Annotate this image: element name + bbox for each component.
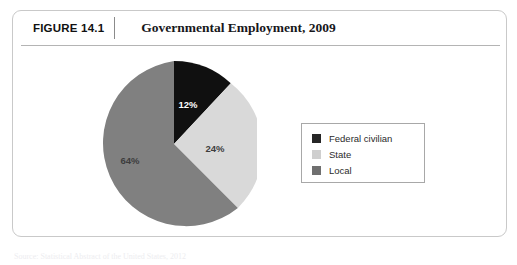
- pie-label-state: 24%: [205, 143, 225, 154]
- legend-item-local: Local: [312, 163, 424, 178]
- chart-plot-area: 12% 24% 64% Federal civilian State Local: [13, 46, 506, 237]
- header-divider: [114, 17, 115, 39]
- legend-label-local: Local: [329, 165, 352, 176]
- legend-swatch-federal-civilian: [312, 134, 321, 143]
- legend-item-state: State: [312, 147, 424, 162]
- chart-legend: Federal civilian State Local: [301, 123, 425, 183]
- pie-label-local: 64%: [120, 155, 140, 166]
- legend-swatch-state: [312, 150, 321, 159]
- pie-chart: 12% 24% 64%: [91, 61, 257, 227]
- legend-label-state: State: [329, 149, 351, 160]
- pie-chart-svg: 12% 24% 64%: [91, 61, 257, 227]
- legend-swatch-local: [312, 166, 321, 175]
- source-note: Source: Statistical Abstract of the Unit…: [14, 252, 344, 262]
- figure-card: FIGURE 14.1 Governmental Employment, 200…: [12, 10, 507, 237]
- pie-label-federal-civilian: 12%: [178, 99, 198, 110]
- figure-title: Governmental Employment, 2009: [141, 20, 336, 36]
- figure-header: FIGURE 14.1 Governmental Employment, 200…: [13, 11, 506, 45]
- legend-item-federal-civilian: Federal civilian: [312, 131, 424, 146]
- figure-number-label: FIGURE 14.1: [33, 22, 104, 34]
- legend-label-federal-civilian: Federal civilian: [329, 133, 392, 144]
